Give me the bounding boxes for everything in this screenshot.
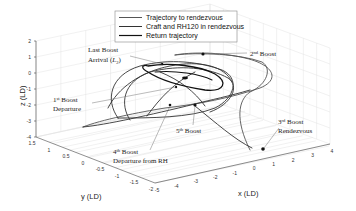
z-tick-label: -1 xyxy=(27,86,32,92)
y-tick-label: 0 xyxy=(82,160,85,166)
boost-marker-4 xyxy=(169,104,172,107)
boost-marker-2 xyxy=(201,52,204,55)
grid-line-x-floor xyxy=(62,110,236,147)
grid-line-z-back xyxy=(36,52,210,89)
y-tick-label: -2 xyxy=(149,186,154,192)
x-tick-label: 3 xyxy=(311,152,314,158)
y-tick-label: -1.5 xyxy=(130,179,139,185)
legend-label-return-trajectory: Return trajectory xyxy=(146,32,198,40)
z-tick-label: 2 xyxy=(28,38,31,44)
x-tick-label: 4 xyxy=(331,148,334,154)
z-tick-label: -3 xyxy=(27,118,32,124)
grid-line-z-right xyxy=(210,84,330,128)
annot-5th-boost: 5th Boost xyxy=(176,127,201,136)
z-axis-label: z (LD) xyxy=(18,85,27,106)
y-tick-label: -0.5 xyxy=(96,166,105,172)
rh120-marker xyxy=(182,77,188,80)
legend: Trajectory to rendezvous Craft and RH120… xyxy=(115,11,245,42)
y-tick-label: -1 xyxy=(115,173,120,179)
z-tick-label: 0 xyxy=(28,70,31,76)
annot-4th-boost-line1: 4th Boost xyxy=(113,148,138,157)
z-tick-label: -4 xyxy=(27,134,32,140)
z-tick-labels: 210-1-2-3-4 xyxy=(27,38,32,140)
annot-3rd-boost-line1: 3rd Boost xyxy=(278,118,303,127)
leader-3rd-boost xyxy=(264,128,279,148)
legend-label-craft-rh120: Craft and RH120 in rendezvous xyxy=(146,23,245,30)
x-tick-label: 0 xyxy=(253,165,256,171)
leader-last-boost xyxy=(130,56,162,64)
y-axis-label: y (LD) xyxy=(81,192,102,201)
annot-2nd-boost: 2nd Boost xyxy=(250,50,276,59)
x-tick-label: 2 xyxy=(292,157,295,163)
x-tick-label: -4 xyxy=(174,183,179,189)
trajectory-3d-chart: 210-1-2-3-4 1.510.50-0.5-1-1.5-2 -5-4-3-… xyxy=(0,0,356,211)
y-tick-label: 0.5 xyxy=(63,153,70,159)
x-tick-label: -1 xyxy=(233,170,238,176)
x-tick-labels: -5-4-3-2-101234 xyxy=(155,148,334,193)
x-axis-line xyxy=(155,144,330,183)
leader-1st-boost xyxy=(92,87,176,103)
y-tick-label: 1.5 xyxy=(29,140,36,146)
grid-line-z-right xyxy=(210,68,330,112)
trajectories xyxy=(83,52,272,150)
annot-last-boost-line2: Arrival (L2) xyxy=(88,56,121,65)
x-tick-label: -5 xyxy=(155,187,160,193)
annot-1st-boost-line1: 1st Boost xyxy=(53,96,78,105)
z-tick-label: 1 xyxy=(28,54,31,60)
annot-3rd-boost-line2: Rendezvous xyxy=(278,127,312,135)
x-tick-label: 1 xyxy=(272,161,275,167)
annot-1st-boost-line2: Departure xyxy=(53,105,81,113)
y-tick-label: 1 xyxy=(48,147,51,153)
x-tick-label: -2 xyxy=(213,174,218,180)
legend-label-trajectory-to-rendezvous: Trajectory to rendezvous xyxy=(146,14,223,22)
grid-line-x-floor xyxy=(129,136,303,173)
z-tick-label: -2 xyxy=(27,102,32,108)
x-tick-label: -3 xyxy=(194,178,199,184)
x-axis-label: x (LD) xyxy=(238,189,259,198)
annot-4th-boost-line2: Departure from RH xyxy=(113,157,168,165)
annot-last-boost-line1: Last Boost xyxy=(88,46,118,54)
